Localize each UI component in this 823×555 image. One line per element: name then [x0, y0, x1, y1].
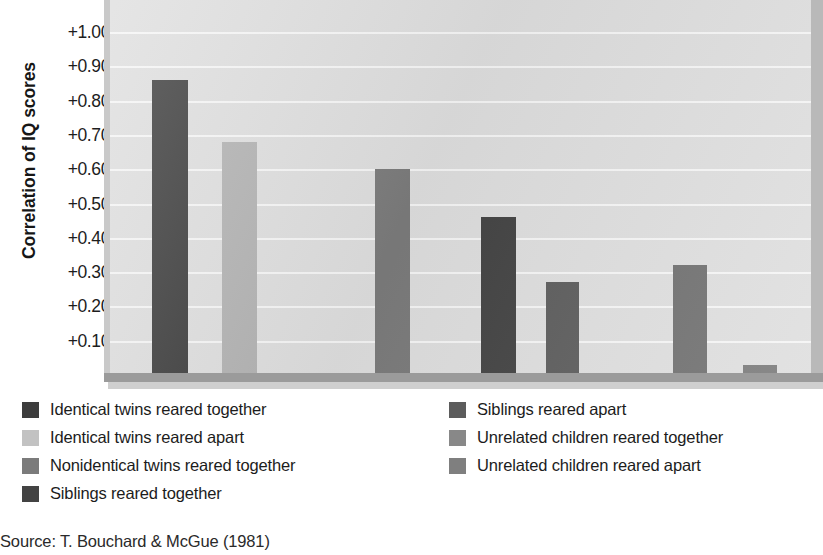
gridline	[110, 272, 817, 274]
bar	[673, 265, 707, 375]
legend-item: Siblings reared together	[22, 480, 295, 507]
legend-swatch-icon	[22, 430, 39, 446]
legend-label: Siblings reared apart	[477, 400, 626, 419]
legend-item: Identical twins reared together	[22, 396, 295, 423]
gridline	[110, 306, 817, 308]
legend-swatch-icon	[449, 402, 466, 418]
plot-left-edge	[104, 0, 110, 375]
baseline-shadow	[108, 382, 823, 389]
bar	[546, 282, 579, 375]
legend-label: Siblings reared together	[50, 484, 222, 503]
gridline	[110, 32, 817, 34]
legend-label: Unrelated children reared apart	[477, 456, 701, 475]
legend-swatch-icon	[22, 458, 39, 474]
legend-label: Identical twins reared apart	[50, 428, 244, 447]
legend-swatch-icon	[22, 486, 39, 502]
legend-item: Unrelated children reared apart	[449, 452, 723, 479]
legend-item: Siblings reared apart	[449, 396, 723, 423]
plot-right-edge	[811, 0, 823, 375]
gridline	[110, 238, 817, 240]
gridline	[110, 135, 817, 137]
y-axis-tick-labels: +1.00+0.90+0.80+0.70+0.60+0.50+0.40+0.30…	[38, 0, 110, 392]
x-axis-baseline	[104, 373, 823, 382]
gridline	[110, 341, 817, 343]
y-axis-title: Correlation of IQ scores	[19, 46, 40, 276]
legend-label: Nonidentical twins reared together	[50, 456, 295, 475]
bar-chart: Correlation of IQ scores +1.00+0.90+0.80…	[0, 0, 823, 392]
legend-column-left: Identical twins reared togetherIdentical…	[22, 396, 295, 508]
bar	[222, 142, 257, 375]
bar	[481, 217, 516, 375]
legend-item: Nonidentical twins reared together	[22, 452, 295, 479]
plot-area	[110, 0, 817, 375]
legend-label: Unrelated children reared together	[477, 428, 723, 447]
gridline	[110, 169, 817, 171]
bar	[152, 80, 188, 375]
legend-swatch-icon	[449, 430, 466, 446]
gridline	[110, 101, 817, 103]
legend-swatch-icon	[449, 458, 466, 474]
source-note: Source: T. Bouchard & McGue (1981)	[0, 532, 270, 551]
gridline	[110, 66, 817, 68]
legend-column-right: Siblings reared apartUnrelated children …	[449, 396, 723, 480]
legend-label: Identical twins reared together	[50, 400, 266, 419]
gridline	[110, 204, 817, 206]
legend-item: Unrelated children reared together	[449, 424, 723, 451]
bar	[375, 169, 410, 375]
legend-item: Identical twins reared apart	[22, 424, 295, 451]
legend-swatch-icon	[22, 402, 39, 418]
chart-legend: Identical twins reared togetherIdentical…	[0, 396, 823, 528]
chart-page: Correlation of IQ scores +1.00+0.90+0.80…	[0, 0, 823, 555]
